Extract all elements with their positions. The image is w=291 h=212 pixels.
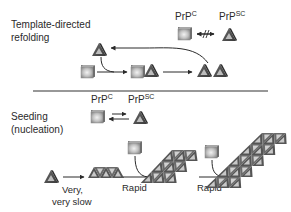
triangle-prpsc-icon — [44, 170, 59, 183]
triangle-prpsc-icon — [133, 111, 148, 124]
svg-text:PrPSC: PrPSC — [128, 93, 154, 105]
fibril-icon — [205, 133, 291, 188]
cube-prpc-icon — [81, 65, 95, 78]
bottom-title-line1: Seeding — [11, 111, 48, 122]
cube-prpc-icon — [178, 27, 192, 40]
step1-label-line1: Very, — [62, 184, 83, 195]
cube-prpc-icon — [128, 141, 142, 154]
cube-prpc-icon — [91, 110, 105, 123]
svg-text:PrPSC: PrPSC — [219, 10, 245, 22]
triangle-prpsc-icon — [92, 43, 107, 56]
triangle-prpsc-icon — [197, 64, 212, 77]
step2-label: Rapid — [122, 182, 147, 193]
bottom-reaction: Very, very slow Rapid Rapid — [44, 133, 291, 207]
top-legend: PrPC PrPSC — [175, 10, 245, 41]
svg-text:PrPC: PrPC — [91, 93, 113, 105]
top-reaction — [81, 43, 228, 78]
svg-text:PrPC: PrPC — [175, 10, 197, 22]
fibril-icon — [88, 167, 124, 178]
triangle-prpsc-icon — [222, 28, 237, 41]
bottom-legend: PrPC PrPSC — [91, 93, 154, 124]
prion-diagram: Template-directed refolding PrPC PrPSC S… — [0, 0, 291, 212]
cube-prpc-icon — [131, 65, 145, 78]
triangle-prpsc-icon — [213, 64, 228, 77]
top-title-line2: refolding — [11, 32, 49, 43]
triangle-prpsc-icon — [144, 64, 159, 77]
cube-prpc-icon — [205, 145, 219, 158]
fibril-icon — [141, 150, 202, 183]
top-title-line1: Template-directed — [11, 19, 90, 30]
bottom-title-line2: (nucleation) — [11, 124, 63, 135]
step1-label-line2: very slow — [52, 196, 92, 207]
